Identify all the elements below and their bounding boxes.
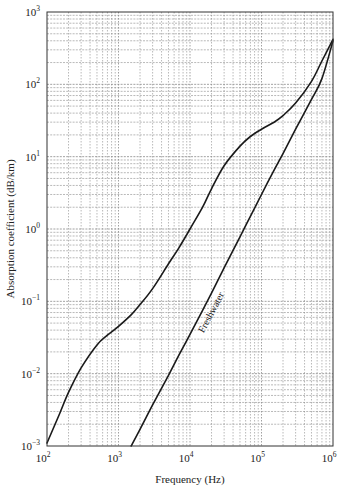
y-tick-label: 103 <box>25 4 40 18</box>
y-tick-label: 10−3 <box>21 438 40 452</box>
y-tick-label: 10−2 <box>21 366 40 380</box>
x-tick-label: 106 <box>322 450 337 464</box>
x-axis-title: Frequency (Hz) <box>155 473 225 486</box>
y-axis-tick-labels: 10−310−210−1100101102103 <box>21 4 40 452</box>
absorption-chart: 102103104105106 10−310−210−1100101102103… <box>0 0 345 489</box>
x-tick-label: 105 <box>250 450 265 464</box>
x-tick-label: 103 <box>107 450 122 464</box>
y-tick-label: 10−1 <box>21 293 40 307</box>
x-tick-label: 102 <box>36 450 51 464</box>
x-axis-tick-labels: 102103104105106 <box>36 450 337 464</box>
freshwater-label: Freshwater <box>196 290 227 335</box>
y-tick-label: 100 <box>25 221 40 235</box>
x-tick-label: 104 <box>179 450 194 464</box>
y-tick-label: 101 <box>25 149 40 163</box>
y-tick-label: 102 <box>25 76 40 90</box>
y-axis-title: Absorption coefficient (dB/km) <box>4 159 17 298</box>
